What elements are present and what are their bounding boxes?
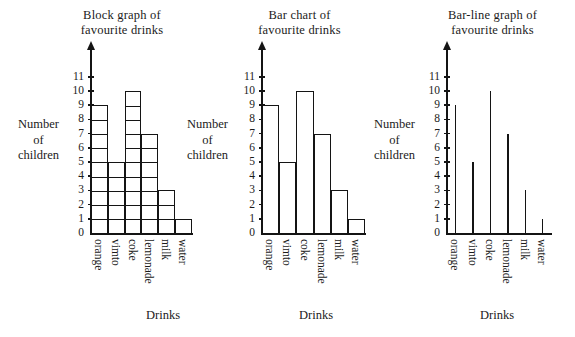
block-graph-unit-cell xyxy=(141,176,158,192)
y-axis-tick xyxy=(444,90,450,92)
y-axis-tick-label: 0 xyxy=(68,227,84,239)
block-graph-unit-cell xyxy=(158,190,175,206)
y-axis-tick-label: 3 xyxy=(68,185,84,197)
y-axis-tick-label: 3 xyxy=(239,185,255,197)
y-axis-tick-label: 8 xyxy=(424,114,440,126)
block-graph-unit-cell xyxy=(125,219,142,235)
y-axis-tick-label: 0 xyxy=(239,227,255,239)
y-axis-tick-label: 10 xyxy=(68,85,84,97)
y-axis-tick-label: 9 xyxy=(68,99,84,111)
x-axis-tick-label: milk xyxy=(518,239,530,260)
x-axis-tick-label: vimto xyxy=(281,239,293,266)
block-graph-unit-cell xyxy=(125,119,142,135)
y-axis-tick xyxy=(444,119,450,121)
block-graph-unit-cell xyxy=(108,162,125,178)
block-graph-unit-cell xyxy=(108,219,125,235)
block-graph-unit-cell xyxy=(158,219,175,235)
y-axis-tick xyxy=(88,76,94,78)
block-graph-unit-cell xyxy=(125,205,142,221)
y-axis-tick-label: 5 xyxy=(424,156,440,168)
y-axis-caption-line: children xyxy=(18,148,59,164)
block-graph-unit-cell xyxy=(91,148,108,164)
y-axis-caption-line: Number xyxy=(374,117,415,133)
y-axis-arrow-icon xyxy=(443,41,451,50)
y-axis-caption-line: of xyxy=(374,133,415,149)
y-axis-tick-label: 2 xyxy=(68,199,84,211)
x-axis-tick-label: orange xyxy=(449,239,461,270)
y-axis-tick xyxy=(444,175,450,177)
bar xyxy=(262,105,279,234)
bar-line-stick xyxy=(507,134,509,234)
x-axis-tick-label: lemonade xyxy=(143,239,155,284)
y-axis-tick-label: 5 xyxy=(68,156,84,168)
y-axis-tick xyxy=(88,90,94,92)
y-axis-arrow-icon xyxy=(258,41,266,50)
y-axis-tick-label: 9 xyxy=(239,99,255,111)
bar-line-stick xyxy=(472,162,474,234)
y-axis-tick-label: 4 xyxy=(424,170,440,182)
block-graph-unit-cell xyxy=(108,205,125,221)
y-axis-tick xyxy=(444,161,450,163)
y-axis-tick xyxy=(444,147,450,149)
bar-line-stick xyxy=(525,190,527,234)
bar xyxy=(348,219,365,234)
three-charts-figure: Block graph of favourite drinks 01234567… xyxy=(0,0,575,337)
bar-chart-panel: Bar chart of favourite drinks 0123456789… xyxy=(190,0,385,337)
x-axis-tick-label: lemonade xyxy=(315,239,327,284)
block-graph-unit-cell xyxy=(91,119,108,135)
bar xyxy=(296,91,313,234)
y-axis-tick-label: 5 xyxy=(239,156,255,168)
block-graph-unit-cell xyxy=(125,162,142,178)
y-axis-tick-label: 10 xyxy=(424,85,440,97)
x-axis-tick-label: coke xyxy=(484,239,496,261)
block-graph-unit-cell xyxy=(125,105,142,121)
y-axis-tick-label: 7 xyxy=(424,128,440,140)
y-axis-tick-label: 7 xyxy=(239,128,255,140)
x-axis-caption: Drinks xyxy=(480,308,514,323)
x-axis-tick-label: water xyxy=(350,239,362,265)
bar xyxy=(279,162,296,234)
x-axis-tick-label: orange xyxy=(264,239,276,270)
y-axis-caption-line: children xyxy=(374,148,415,164)
bar-line-graph-panel: Bar-line graph of favourite drinks 01234… xyxy=(378,0,575,337)
y-axis-tick-label: 6 xyxy=(424,142,440,154)
y-axis-tick-label: 7 xyxy=(68,128,84,140)
y-axis-tick-label: 2 xyxy=(424,199,440,211)
block-graph-unit-cell xyxy=(125,176,142,192)
y-axis-caption: Numberofchildren xyxy=(18,117,59,164)
y-axis-tick-label: 1 xyxy=(424,213,440,225)
y-axis-tick xyxy=(444,204,450,206)
y-axis-tick-label: 4 xyxy=(239,170,255,182)
x-axis-tick-label: vimto xyxy=(466,239,478,266)
y-axis-tick-label: 6 xyxy=(68,142,84,154)
y-axis-caption-line: of xyxy=(187,133,228,149)
x-axis-tick-label: orange xyxy=(92,239,104,270)
block-graph-unit-cell xyxy=(141,205,158,221)
x-axis-tick-label: coke xyxy=(298,239,310,261)
y-axis-caption: Numberofchildren xyxy=(187,117,228,164)
y-axis-tick-label: 1 xyxy=(68,213,84,225)
x-axis-caption: Drinks xyxy=(299,308,333,323)
title-line-2: favourite drinks xyxy=(394,23,575,38)
y-axis-tick-label: 3 xyxy=(424,185,440,197)
y-axis-tick xyxy=(444,190,450,192)
y-axis-tick-label: 1 xyxy=(239,213,255,225)
block-graph-unit-cell xyxy=(108,190,125,206)
block-graph-unit-cell xyxy=(91,162,108,178)
block-graph-unit-cell xyxy=(158,205,175,221)
y-axis-tick xyxy=(444,218,450,220)
y-axis-tick-label: 2 xyxy=(239,199,255,211)
x-axis-tick-label: vimto xyxy=(109,239,121,266)
block-graph-unit-cell xyxy=(125,190,142,206)
bar xyxy=(331,190,348,234)
block-graph-unit-cell xyxy=(141,219,158,235)
y-axis-caption-line: of xyxy=(18,133,59,149)
x-axis-tick-label: milk xyxy=(160,239,172,260)
y-axis-caption: Numberofchildren xyxy=(374,117,415,164)
x-axis-tick-label: coke xyxy=(126,239,138,261)
y-axis-tick xyxy=(444,104,450,106)
title-line-1: Bar-line graph of xyxy=(394,8,575,23)
block-graph-unit-cell xyxy=(141,134,158,150)
x-axis-tick-label: lemonade xyxy=(501,239,513,284)
y-axis-tick xyxy=(259,90,265,92)
